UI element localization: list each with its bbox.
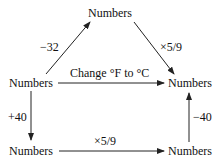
node-top: Numbers [88,6,132,20]
label-times-5-9-bottom: ×5/9 [94,134,116,148]
label-minus-40: −40 [193,110,212,124]
node-bottom-left: Numbers [9,144,53,158]
node-right: Numbers [168,76,212,90]
node-left: Numbers [9,76,53,90]
label-change-f-to-c: Change °F to °C [70,66,149,80]
label-plus-40: +40 [8,110,27,124]
node-bottom-right: Numbers [168,144,212,158]
label-minus-32: −32 [40,40,59,54]
label-times-5-9-top: ×5/9 [160,40,182,54]
